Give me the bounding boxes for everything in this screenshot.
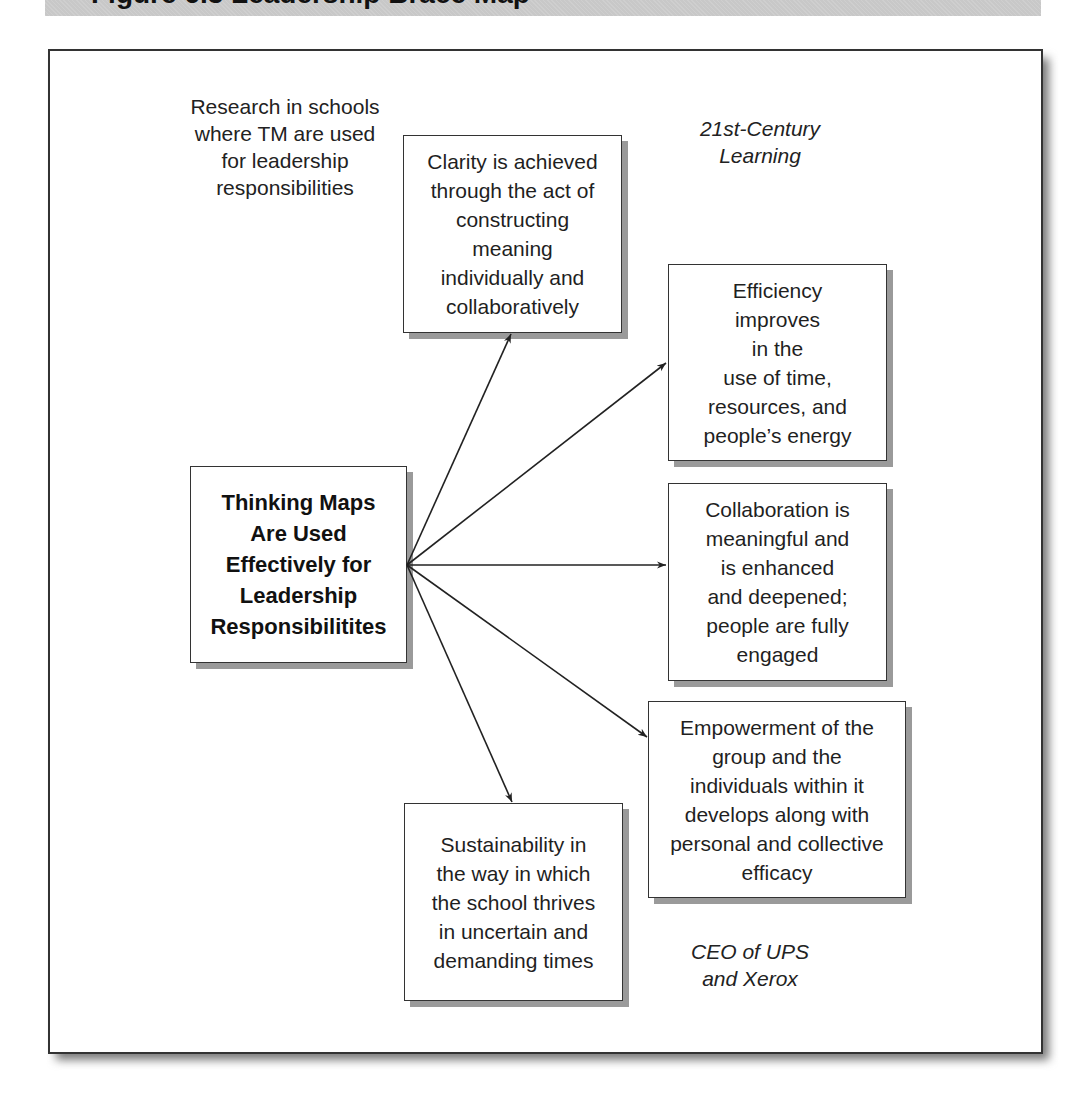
arrow-to-empowerment	[407, 565, 647, 737]
arrow-to-efficiency	[407, 363, 666, 565]
arrow-to-clarity	[407, 334, 511, 565]
arrow-to-sustainability	[407, 565, 512, 802]
connector-arrows	[0, 0, 1091, 1100]
